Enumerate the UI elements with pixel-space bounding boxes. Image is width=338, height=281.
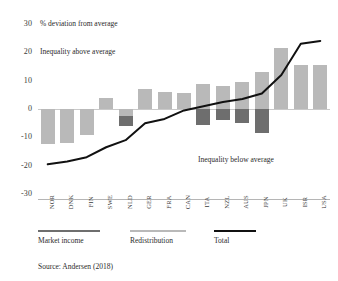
x-label-cell: ISR: [291, 201, 310, 229]
x-tick-label: ITA: [203, 197, 210, 208]
bar-segment-redist: [41, 109, 55, 144]
bar-segment-market: [255, 109, 269, 133]
legend-label: Total: [214, 236, 256, 245]
bar-group: [291, 24, 310, 194]
bar-segment-redist: [294, 65, 308, 109]
annotation-below-average: Inequality below average: [198, 155, 274, 164]
x-axis-labels: NORDNKFINSWENLDGERFRACANITANZLAUSJPNUKIS…: [38, 201, 330, 229]
bar-group: [252, 24, 271, 194]
x-tick-label: FRA: [165, 195, 172, 208]
bar-group: [194, 24, 213, 194]
bar-segment-redist: [255, 72, 269, 109]
x-tick-label: DNK: [67, 195, 74, 210]
bar-segment-redist: [177, 93, 191, 109]
bar-segment-market: [196, 109, 210, 125]
y-tick-label: -30: [21, 190, 32, 198]
bar-segment-redist: [119, 109, 133, 116]
x-tick-label: FIN: [87, 196, 94, 207]
legend-item: Redistribution: [130, 230, 186, 245]
bar-group: [213, 24, 232, 194]
chart-legend: Market incomeRedistributionTotal: [38, 230, 330, 248]
x-label-cell: SWE: [96, 201, 115, 229]
bar-segment-market: [235, 109, 249, 123]
x-tick-label: CAN: [184, 195, 191, 209]
x-label-cell: UK: [272, 201, 291, 229]
bar-group: [135, 24, 154, 194]
x-tick-label: JPN: [262, 196, 269, 207]
y-tick-label: -20: [21, 162, 32, 170]
bar-segment-redist: [196, 84, 210, 110]
annotation-deviation-note: % deviation from average: [40, 19, 118, 28]
x-tick-label: NOR: [48, 195, 55, 209]
bar-segment-redist: [158, 92, 172, 109]
x-tick-label: AUS: [242, 195, 249, 209]
bar-segment-redist: [274, 48, 288, 109]
x-label-cell: FRA: [155, 201, 174, 229]
bar-group: [233, 24, 252, 194]
x-label-cell: AUS: [233, 201, 252, 229]
x-label-cell: NLD: [116, 201, 135, 229]
x-label-cell: CAN: [174, 201, 193, 229]
bar-segment-redist: [99, 98, 113, 109]
legend-item: Total: [214, 230, 256, 245]
bar-group: [272, 24, 291, 194]
bar-group: [311, 24, 330, 194]
x-label-cell: NOR: [38, 201, 57, 229]
source-note: Source: Andersen (2018): [38, 262, 113, 271]
x-label-cell: GER: [135, 201, 154, 229]
y-tick-label: -10: [21, 133, 32, 141]
y-tick-label: 30: [24, 20, 32, 28]
x-label-cell: DNK: [57, 201, 76, 229]
x-tick-label: ISR: [301, 197, 308, 208]
x-label-cell: ITA: [194, 201, 213, 229]
legend-swatch: [130, 230, 186, 232]
plot-area: 3020100-10-20-30 % deviation from averag…: [38, 24, 330, 194]
x-label-cell: USA: [311, 201, 330, 229]
x-tick-label: USA: [320, 195, 327, 209]
x-tick-label: UK: [281, 197, 288, 207]
legend-label: Redistribution: [130, 236, 186, 245]
bar-segment-redist: [313, 65, 327, 109]
x-tick-label: SWE: [106, 195, 113, 209]
bar-segment-redist: [60, 109, 74, 143]
bar-group: [116, 24, 135, 194]
x-tick-label: NZL: [223, 195, 230, 208]
bar-group: [174, 24, 193, 194]
y-tick-label: 10: [24, 77, 32, 85]
x-label-cell: JPN: [252, 201, 271, 229]
legend-swatch: [38, 230, 100, 232]
x-tick-label: NLD: [126, 195, 133, 209]
bar-segment-redist: [216, 86, 230, 109]
bar-segment-redist: [80, 109, 94, 135]
bar-segment-redist: [235, 82, 249, 109]
legend-label: Market income: [38, 236, 100, 245]
bar-group: [155, 24, 174, 194]
legend-swatch: [214, 230, 256, 232]
x-label-cell: NZL: [213, 201, 232, 229]
bar-segment-redist: [138, 89, 152, 109]
annotation-above-average: Inequality above average: [40, 47, 115, 56]
chart-figure: 3020100-10-20-30 % deviation from averag…: [0, 0, 338, 281]
legend-item: Market income: [38, 230, 100, 245]
x-tick-label: GER: [145, 195, 152, 209]
y-tick-label: 0: [28, 105, 32, 113]
bar-segment-market: [216, 109, 230, 120]
x-label-cell: FIN: [77, 201, 96, 229]
y-tick-label: 20: [24, 48, 32, 56]
